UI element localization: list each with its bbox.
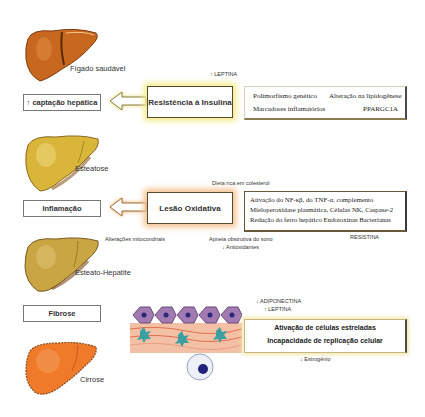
resistin-label: RESISTINA	[350, 234, 379, 240]
insulin-details-box: Polimorfismo genético Alteração na lipid…	[244, 86, 407, 120]
steatohepatitis-liver-illustration	[22, 233, 102, 295]
stage-label-healthy: Fígado saudável	[70, 64, 125, 73]
detail-inflammatory-markers: Marcadores inflamatórios	[253, 105, 325, 113]
cirrhosis-liver-illustration	[22, 337, 102, 399]
stage-label-steatosis: Esteatose	[75, 164, 108, 173]
oxidative-injury-box: Lesão Oxidativa	[147, 192, 233, 224]
left-box-inflammation: Inflamação	[23, 200, 101, 217]
stage-label-steatohepatitis: Esteato-Hepatite	[75, 268, 131, 277]
left-box-fibrosis: Fibrose	[23, 305, 101, 322]
estrogen-label: ↓ Estrogênio	[300, 356, 331, 362]
healthy-liver-illustration	[22, 25, 102, 85]
left-box-hepatic-uptake: ↑ captação hepática	[23, 94, 101, 111]
detail-ppargc1a: PPARGC1A	[363, 105, 398, 113]
detail-replication-incapacity: Incapacidade de replicação celular	[245, 337, 405, 344]
leptin-label-fibrosis: ↑ LEPTINA	[264, 306, 291, 312]
detail-nfkb-tnf: Ativação do NF-κβ, do TNF-α, complemento	[250, 196, 373, 203]
detail-genetic-polymorphism: Polimorfismo genético	[253, 92, 317, 100]
mitochondrial-label: Alterações mitocondriais	[105, 236, 165, 242]
left-arrow-icon	[108, 196, 148, 218]
cholesterol-diet-label: Dieta rica em colesterol	[212, 180, 269, 186]
leptin-label: ↑ LEPTINA	[210, 71, 237, 77]
detail-stellate-activation: Ativação de células estreladas	[245, 324, 405, 331]
fibrosis-details-box: Ativação de células estreladas Incapacid…	[244, 319, 407, 353]
adiponectin-label: ↓ ADIPONECTINA	[256, 298, 301, 304]
left-arrow-icon	[108, 90, 148, 112]
detail-lipogenesis: Alteração na lipidogênese	[329, 92, 402, 100]
hepatic-cells-illustration	[130, 305, 242, 385]
stage-label-cirrhosis: Cirrose	[80, 375, 104, 384]
sleep-apnea-label: Apneia obstrutiva do sono	[209, 236, 273, 242]
detail-iron-endotoxins: Redução do ferro hepático Endotoxinas Ba…	[250, 216, 391, 223]
oxidative-details-box: Ativação do NF-κβ, do TNF-α, complemento…	[244, 191, 407, 232]
antioxidants-label: ↓ Antioxidantes	[222, 244, 259, 250]
detail-myeloperoxidase: Mieloperoxidase plasmática, Células NK, …	[250, 206, 393, 213]
insulin-resistance-box: Resistência à Insulina	[147, 86, 233, 118]
